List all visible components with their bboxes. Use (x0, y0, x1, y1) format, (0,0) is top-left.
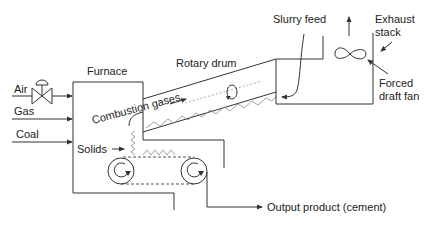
label-gas: Gas (14, 105, 35, 117)
left-roller-icon (108, 158, 134, 184)
output-line (207, 172, 262, 207)
feed-box (276, 33, 373, 104)
exhaust-stack-pointer (381, 42, 392, 51)
drum-rotation-icon (226, 85, 237, 100)
slurry-feed-arrow (282, 34, 304, 97)
label-solids: Solids (77, 143, 107, 155)
air-control-valve-icon (32, 80, 52, 104)
right-roller-icon (181, 158, 207, 184)
solids-falling (131, 131, 135, 155)
label-air: Air (14, 83, 28, 95)
label-furnace: Furnace (87, 65, 127, 77)
label-coal: Coal (16, 128, 39, 140)
label-draft-fan: draft fan (379, 90, 419, 102)
cooling-conveyor (108, 150, 207, 184)
label-exhaust: Exhaust (375, 13, 415, 25)
label-forced: Forced (379, 77, 413, 89)
fan-pointer (368, 60, 388, 74)
label-rotary-drum: Rotary drum (176, 57, 237, 69)
label-slurry-feed: Slurry feed (273, 13, 326, 25)
label-stack: stack (375, 26, 401, 38)
label-combustion-gases: Combustion gases (90, 91, 182, 126)
label-output-product: Output product (cement) (267, 201, 386, 213)
forced-draft-fan-icon (335, 48, 366, 59)
process-diagram: Air Gas Coal Furnace Rotary drum Combust… (0, 0, 428, 227)
